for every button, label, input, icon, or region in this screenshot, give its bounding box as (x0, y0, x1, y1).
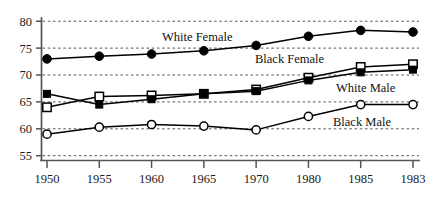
marker-white-male-1965-3 (200, 90, 207, 97)
marker-white-male-1955-1 (96, 101, 103, 108)
line-chart: 556065707580 195019551960196519701980198… (0, 0, 448, 198)
series-annotation-white-female: White Female (162, 30, 233, 44)
marker-white-female-1965-3 (200, 47, 209, 56)
marker-black-male-1985-6 (357, 101, 365, 109)
series-annotation-white-male: White Male (336, 81, 396, 95)
y-tick-label-80: 80 (20, 15, 33, 29)
x-tick-label-1980-5: 1980 (296, 172, 321, 186)
series-annotation-black-male: Black Male (333, 115, 391, 129)
y-tick-label-65: 65 (20, 95, 33, 109)
marker-white-male-1950-0 (44, 90, 51, 97)
x-tick-label-1955-1: 1955 (87, 172, 112, 186)
x-tick-label-1960-2: 1960 (139, 172, 164, 186)
marker-black-male-1980-5 (304, 112, 312, 120)
marker-black-male-1950-0 (43, 130, 51, 138)
marker-white-female-1983-7 (409, 28, 418, 37)
marker-black-male-1955-1 (95, 123, 103, 131)
y-axis-tick-labels-group: 556065707580 (20, 15, 33, 163)
marker-white-male-1980-5 (305, 77, 312, 84)
marker-white-female-1985-6 (356, 26, 365, 35)
marker-white-male-1983-7 (410, 66, 417, 73)
marker-white-female-1960-2 (147, 50, 156, 59)
marker-white-female-1970-4 (252, 41, 261, 50)
marker-black-male-1960-2 (147, 120, 155, 128)
x-tick-label-1985-6: 1985 (348, 172, 373, 186)
marker-black-female-1950-0 (43, 103, 51, 111)
y-tick-label-70: 70 (20, 68, 33, 82)
x-tick-label-1950-0: 1950 (35, 172, 60, 186)
chart-container: 556065707580 195019551960196519701980198… (0, 0, 448, 198)
series-annotations-group: White FemaleBlack FemaleWhite MaleBlack … (162, 30, 396, 129)
marker-black-male-1970-4 (252, 126, 260, 134)
marker-black-male-1965-3 (200, 122, 208, 130)
y-tick-label-60: 60 (20, 122, 33, 136)
series-annotation-black-female: Black Female (255, 52, 325, 66)
marker-white-male-1970-4 (253, 88, 260, 95)
y-tick-label-55: 55 (20, 149, 33, 163)
marker-white-female-1950-0 (43, 55, 52, 64)
y-tick-label-75: 75 (20, 42, 33, 56)
x-tick-label-1970-4: 1970 (244, 172, 269, 186)
x-tick-label-1983-7: 1983 (401, 172, 426, 186)
x-tick-label-1965-3: 1965 (191, 172, 216, 186)
marker-white-male-1960-2 (148, 96, 155, 103)
marker-black-male-1983-7 (409, 101, 417, 109)
x-tick-marks-group (47, 161, 413, 169)
marker-white-female-1980-5 (304, 32, 313, 41)
x-axis-tick-labels-group: 19501955196019651970198019851983 (35, 172, 426, 186)
marker-white-female-1955-1 (95, 52, 104, 61)
marker-black-female-1955-1 (95, 92, 103, 100)
marker-white-male-1985-6 (357, 69, 364, 76)
